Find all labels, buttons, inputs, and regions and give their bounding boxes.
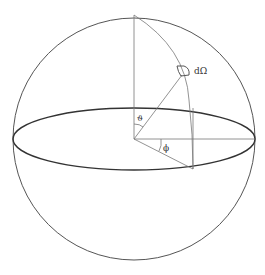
phi-arc — [159, 139, 161, 151]
azimuth-angle-label: ϕ — [163, 143, 169, 153]
radius-to-patch — [134, 75, 182, 139]
solid-angle-label: dΩ — [194, 66, 207, 76]
polar-angle-label: ϑ — [137, 114, 143, 123]
sphere-diagram: dΩ ϑ ϕ — [0, 0, 265, 275]
theta-arc — [134, 124, 143, 127]
